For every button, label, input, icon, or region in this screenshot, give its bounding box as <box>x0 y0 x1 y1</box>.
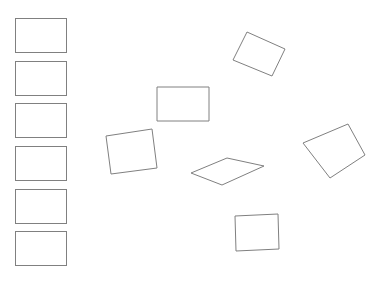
shape-canvas <box>0 0 385 283</box>
scattered-quadrilateral-group <box>106 32 365 251</box>
tilted-quadrilateral-right[interactable] <box>303 124 365 178</box>
tilted-rectangle-top-right[interactable] <box>233 32 285 76</box>
reference-rectangle-5[interactable] <box>16 190 67 224</box>
reference-rectangle-4[interactable] <box>16 147 67 181</box>
flat-parallelogram-center[interactable] <box>191 158 264 185</box>
reference-rectangle-1[interactable] <box>16 19 67 53</box>
shape-canvas-svg <box>0 0 385 283</box>
upright-rectangle-bottom[interactable] <box>235 214 279 251</box>
reference-rectangle-3[interactable] <box>16 104 67 138</box>
reference-rectangle-6[interactable] <box>16 232 67 266</box>
reference-rectangle-column <box>16 19 67 266</box>
reference-rectangle-2[interactable] <box>16 62 67 96</box>
upright-rectangle-center[interactable] <box>157 87 209 121</box>
tilted-rectangle-left-middle[interactable] <box>106 129 157 174</box>
